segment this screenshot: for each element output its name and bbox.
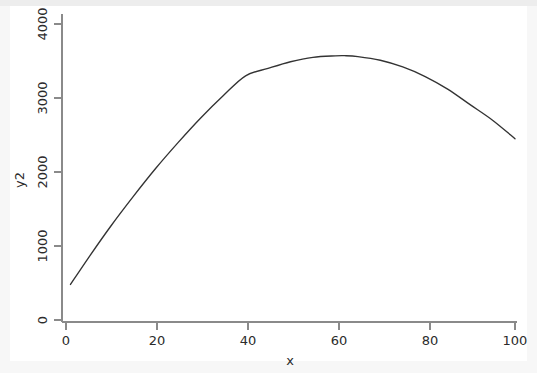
- line-chart: 4000 3000 2000 1000 0 y2 0 20 40 60 80 1…: [0, 0, 537, 373]
- x-tick-label: 60: [331, 333, 348, 348]
- y-tick-label: 1000: [35, 229, 50, 262]
- y-tick-label: 3000: [35, 81, 50, 114]
- x-tick-label: 0: [62, 333, 70, 348]
- x-tick-label: 20: [149, 333, 166, 348]
- y-tick-label: 0: [35, 316, 50, 324]
- x-tick-label: 100: [503, 333, 528, 348]
- x-tick-marks: [66, 322, 515, 330]
- x-tick-label: 40: [240, 333, 257, 348]
- chart-screenshot: 4000 3000 2000 1000 0 y2 0 20 40 60 80 1…: [0, 0, 537, 373]
- y-tick-labels: 4000 3000 2000 1000 0: [35, 7, 50, 324]
- x-tick-label: 80: [422, 333, 439, 348]
- y-tick-marks: [54, 24, 62, 320]
- y-tick-label: 2000: [35, 155, 50, 188]
- x-axis-title: x: [286, 353, 294, 368]
- y-axis-title: y2: [12, 172, 27, 188]
- series-line-y2: [70, 56, 515, 285]
- y-tick-label: 4000: [35, 7, 50, 40]
- x-tick-labels: 0 20 40 60 80 100: [62, 333, 528, 348]
